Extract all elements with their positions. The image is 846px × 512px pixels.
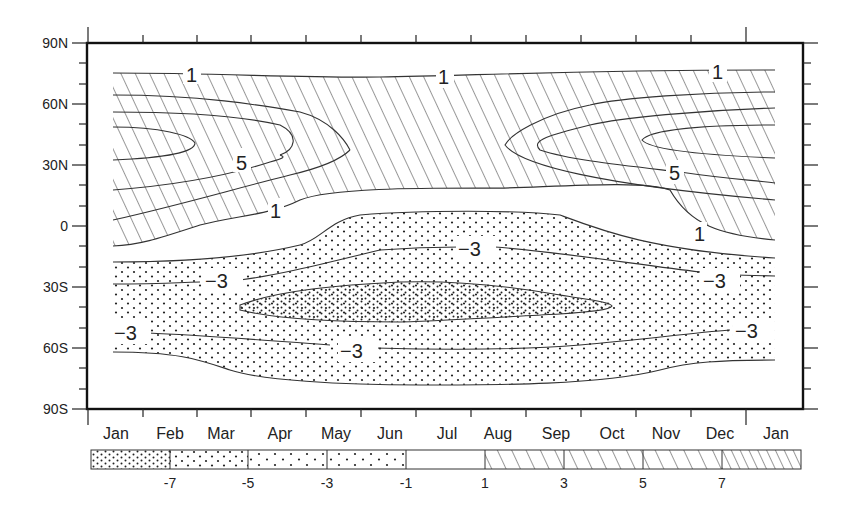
colorbar-label: -1 (400, 475, 413, 491)
contour-label: 1 (270, 200, 281, 222)
colorbar-segment (722, 450, 801, 469)
colorbar-legend: -7 -5 -3 -1 1 3 5 7 (91, 450, 801, 491)
colorbar-label: -7 (164, 475, 177, 491)
x-tick-label: Jun (377, 425, 403, 442)
contour-label: −3 (205, 270, 228, 292)
y-tick-label: 90N (42, 35, 68, 51)
y-tick-label: 60N (42, 96, 68, 112)
x-tick-label: Nov (652, 425, 680, 442)
colorbar-segment (406, 450, 485, 469)
y-tick-label: 90S (43, 401, 68, 417)
colorbar-label: -5 (242, 475, 255, 491)
y-tick-label: 30S (43, 279, 68, 295)
x-tick-label: Jan (763, 425, 789, 442)
contour-label: −3 (114, 322, 137, 344)
colorbar-segment (327, 450, 406, 469)
contour-label: 1 (186, 64, 197, 86)
colorbar-label: 7 (718, 475, 726, 491)
colorbar-label: 5 (639, 475, 647, 491)
colorbar-label: 1 (481, 475, 489, 491)
x-tick-label: Aug (484, 425, 512, 442)
y-tick-label: 30N (42, 157, 68, 173)
x-tick-label: Sep (542, 425, 571, 442)
negative-region (113, 211, 775, 385)
y-tick-label: 60S (43, 340, 68, 356)
colorbar-segment (485, 450, 564, 469)
contour-label: −3 (458, 238, 481, 260)
contour-label: 1 (438, 66, 449, 88)
colorbar-label: 3 (560, 475, 568, 491)
contour-chart: 1 5 1 1 1 5 1 −3 −3 −3 −3 −3 −3 (0, 0, 846, 512)
contour-label: 5 (669, 162, 680, 184)
colorbar-segment (564, 450, 643, 469)
colorbar-label: -3 (321, 475, 334, 491)
contour-label: −3 (340, 340, 363, 362)
colorbar-segment (643, 450, 722, 469)
y-tick-label: 0 (60, 218, 68, 234)
contour-label: −3 (703, 270, 726, 292)
x-tick-label: Oct (600, 425, 625, 442)
colorbar-segment (170, 450, 248, 469)
contour-label: 1 (694, 223, 705, 245)
x-tick-label: Dec (706, 425, 734, 442)
contour-label: −3 (735, 320, 758, 342)
x-tick-label: Apr (268, 425, 294, 442)
y-axis-labels: 90N 60N 30N 0 30S 60S 90S (42, 35, 68, 417)
x-tick-label: Jul (437, 425, 457, 442)
x-tick-label: May (321, 425, 351, 442)
x-tick-label: Mar (207, 425, 235, 442)
x-tick-label: Feb (156, 425, 184, 442)
contour-label: 5 (236, 152, 247, 174)
colorbar-segment (91, 450, 170, 469)
x-tick-label: Jan (103, 425, 129, 442)
colorbar-segment (248, 450, 327, 469)
x-axis-labels: Jan Feb Mar Apr May Jun Jul Aug Sep Oct … (103, 425, 789, 442)
contour-label: 1 (712, 61, 723, 83)
